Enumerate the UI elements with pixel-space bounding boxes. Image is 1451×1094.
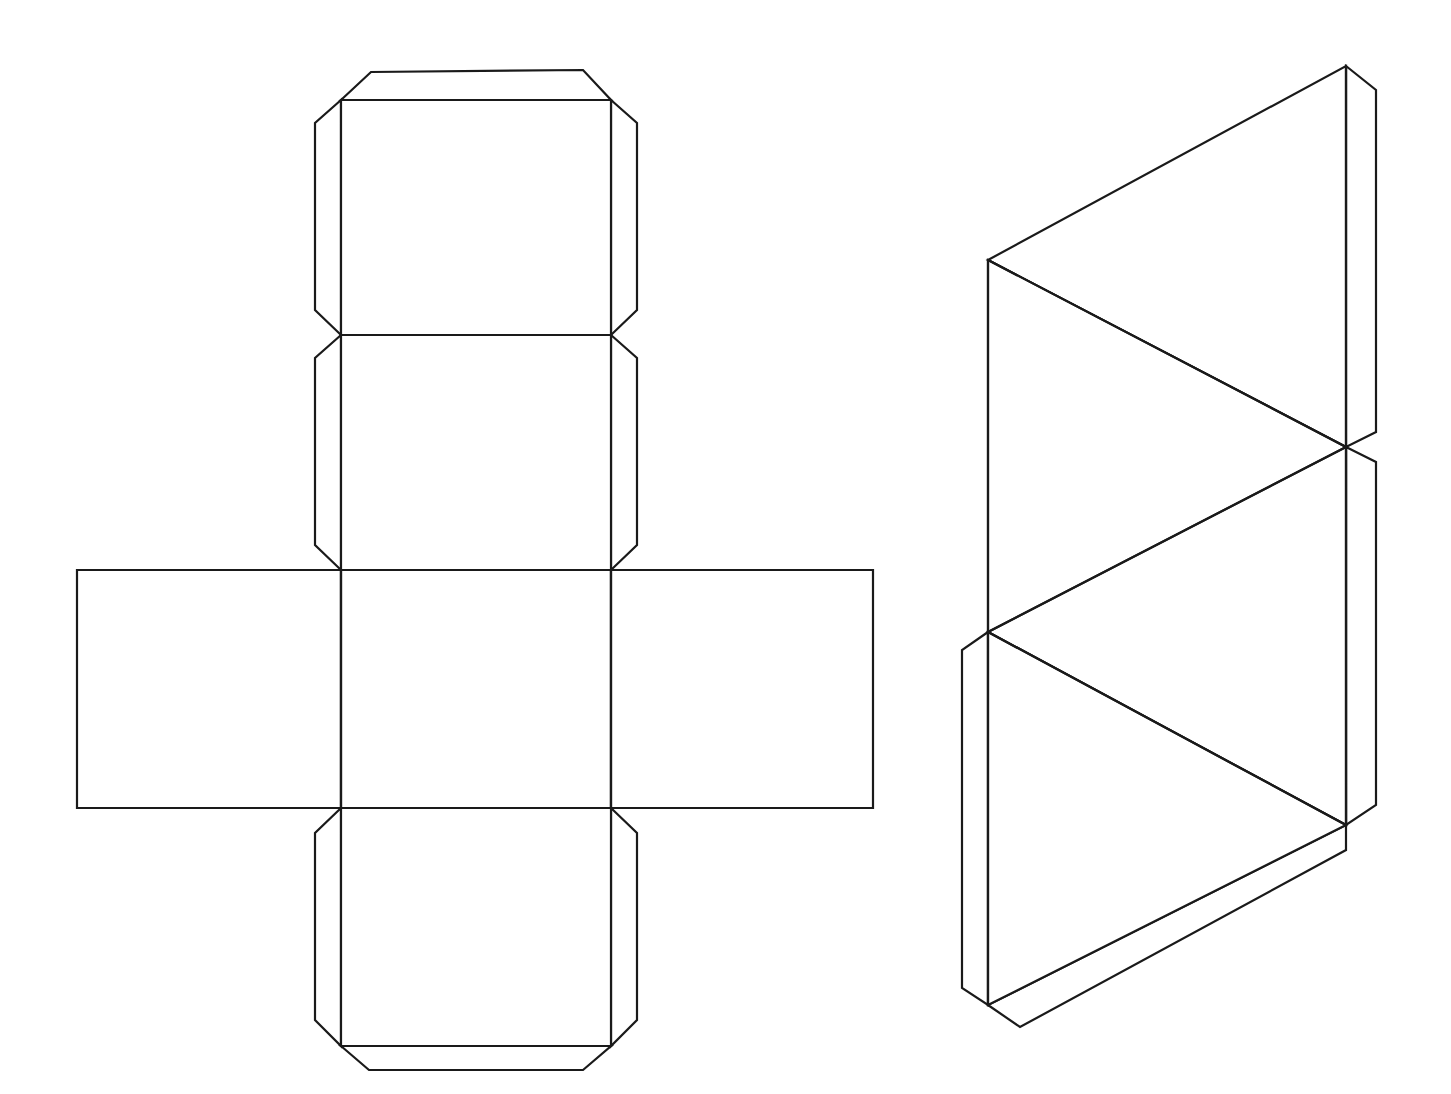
top-glue-tab [341, 70, 611, 100]
cube-net [77, 70, 873, 1070]
left-lower-glue-tab [962, 632, 988, 1005]
right-upper-glue-tab [1346, 66, 1376, 447]
upper-middle-left-glue-tab [315, 335, 341, 570]
cube-face-top-square [341, 100, 611, 335]
cube-face-upper-middle-square [341, 335, 611, 570]
bottom-right-glue-tab [611, 808, 637, 1046]
bottom-glue-tab [341, 1046, 611, 1070]
geometric-nets-canvas [0, 0, 1451, 1094]
bottom-left-glue-tab [315, 808, 341, 1046]
top-right-glue-tab [611, 100, 637, 335]
cube-net-faces [77, 100, 873, 1046]
right-lower-glue-tab [1346, 447, 1376, 825]
cube-face-right-square [611, 570, 873, 808]
top-left-glue-tab [315, 100, 341, 335]
cube-face-left-square [77, 570, 341, 808]
triangular-prism-net [962, 66, 1376, 1027]
cube-face-center-square [341, 570, 611, 808]
net-template-page [0, 0, 1451, 1094]
upper-middle-right-glue-tab [611, 335, 637, 570]
cube-face-bottom-square [341, 808, 611, 1046]
